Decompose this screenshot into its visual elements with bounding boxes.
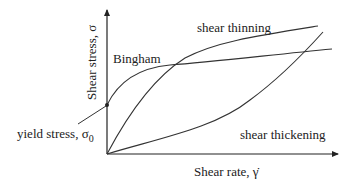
shear-thickening-label: shear thickening bbox=[240, 127, 326, 142]
bingham-label: Bingham bbox=[113, 51, 161, 66]
shear-thinning-label: shear thinning bbox=[197, 20, 272, 35]
gamma-dot-symbol: γ̇ bbox=[252, 164, 260, 179]
x-axis-label: Shear rate, γ̇ bbox=[194, 164, 260, 179]
yield-stress-leader bbox=[78, 106, 106, 124]
yield-stress-label: yield stress, σ0 bbox=[17, 126, 94, 144]
yield-stress-text: yield stress, σ bbox=[17, 126, 89, 141]
x-axis-label-text: Shear rate, bbox=[194, 164, 253, 179]
y-axis-label: Shear stress, σ bbox=[84, 25, 99, 100]
rheology-diagram: Shear stress, σ Shear rate, γ̇ Bingham s… bbox=[0, 0, 355, 189]
yield-stress-subscript: 0 bbox=[89, 133, 94, 144]
